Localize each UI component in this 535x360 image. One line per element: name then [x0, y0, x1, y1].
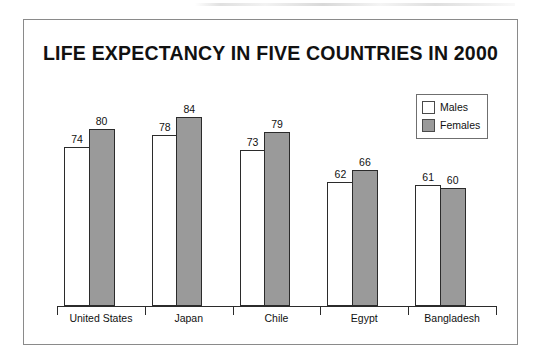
bar-value-females-united-states: 80	[89, 115, 115, 127]
bar-females-bangladesh	[440, 188, 466, 306]
category-label-united-states: United States	[57, 312, 145, 324]
bar-value-males-japan: 78	[152, 121, 178, 133]
bar-value-males-bangladesh: 61	[415, 171, 441, 183]
bar-value-females-japan: 84	[176, 103, 202, 115]
bar-females-united-states	[89, 129, 115, 306]
category-label-chile: Chile	[233, 312, 321, 324]
bar-males-united-states	[64, 147, 90, 306]
bar-value-males-egypt: 62	[327, 168, 353, 180]
axis-tick	[233, 306, 234, 315]
axis-tick	[496, 306, 497, 315]
bar-males-egypt	[327, 182, 353, 306]
axis-tick	[145, 306, 146, 315]
bar-males-japan	[152, 135, 178, 306]
bar-value-females-bangladesh: 60	[440, 174, 466, 186]
category-label-bangladesh: Bangladesh	[408, 312, 496, 324]
category-label-japan: Japan	[145, 312, 233, 324]
chart-frame: LIFE EXPECTANCY IN FIVE COUNTRIES IN 200…	[23, 19, 518, 345]
bar-males-chile	[240, 150, 266, 306]
plot-area: 74807884737962666160	[24, 20, 519, 346]
axis-tick	[408, 306, 409, 315]
bar-females-egypt	[352, 170, 378, 306]
category-label-egypt: Egypt	[320, 312, 408, 324]
axis-tick	[57, 306, 58, 315]
bar-value-females-egypt: 66	[352, 156, 378, 168]
bar-value-females-chile: 79	[264, 118, 290, 130]
bar-females-chile	[264, 132, 290, 306]
bar-males-bangladesh	[415, 185, 441, 306]
bar-value-males-chile: 73	[240, 136, 266, 148]
x-axis-line	[57, 306, 496, 307]
scan-artifact	[195, 3, 515, 6]
bar-females-japan	[176, 117, 202, 306]
axis-tick	[320, 306, 321, 315]
bar-value-males-united-states: 74	[64, 133, 90, 145]
